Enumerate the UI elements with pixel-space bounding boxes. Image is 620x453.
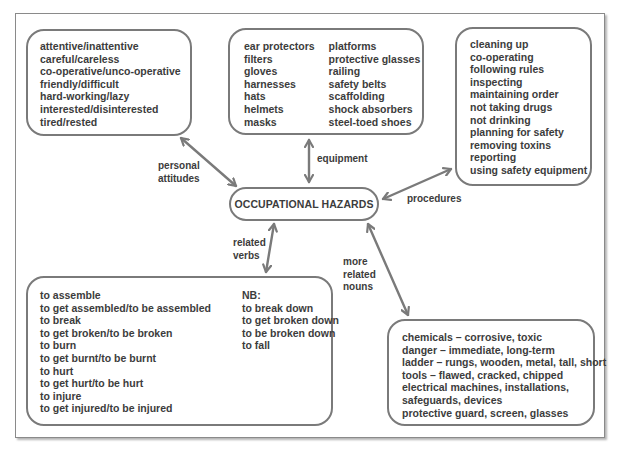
- personal-attitudes-list: attentive/inattentive careful/careless c…: [40, 40, 190, 128]
- list-item: tired/rested: [40, 116, 190, 129]
- equipment-list-col1: ear protectors filters gloves harnesses …: [244, 40, 315, 133]
- nb-heading: NB:: [242, 289, 339, 302]
- label-line: personal: [158, 160, 200, 173]
- list-item: platforms: [329, 40, 421, 53]
- list-item: electrical machines, installations,: [402, 381, 593, 394]
- list-item: co-operative/unco-operative: [40, 65, 190, 78]
- list-item: hard-working/lazy: [40, 90, 190, 103]
- list-item: shock absorbers: [329, 103, 421, 116]
- related-verbs-box: to assemble to get assembled/to be assem…: [26, 276, 333, 426]
- list-item: following rules: [470, 63, 590, 76]
- list-item: filters: [244, 53, 315, 66]
- equipment-list-col2: platforms protective glasses railing saf…: [329, 40, 421, 133]
- link-label-personal-attitudes: personal attitudes: [158, 160, 200, 185]
- label-line: related: [233, 237, 266, 250]
- list-item: safeguards, devices: [402, 394, 593, 407]
- list-item: ladder – rungs, wooden, metal, tall, sho…: [402, 356, 593, 369]
- list-item: removing toxins: [470, 139, 590, 152]
- link-label-related-verbs: related verbs: [233, 237, 266, 262]
- list-item: to get hurt/to be hurt: [40, 377, 211, 390]
- list-item: to be broken down: [242, 327, 339, 340]
- procedures-box: cleaning up co-operating following rules…: [455, 27, 592, 186]
- list-item: maintaining order: [470, 88, 590, 101]
- list-item: to assemble: [40, 289, 211, 302]
- list-item: reporting: [470, 151, 590, 164]
- label-line: attitudes: [158, 173, 200, 186]
- list-item: to hurt: [40, 365, 211, 378]
- list-item: cleaning up: [470, 38, 590, 51]
- list-item: using safety equipment: [470, 164, 590, 177]
- central-node-title: OCCUPATIONAL HAZARDS: [234, 198, 373, 210]
- label-line: nouns: [343, 281, 376, 294]
- list-item: interested/disinterested: [40, 103, 190, 116]
- list-item: safety belts: [329, 78, 421, 91]
- list-item: not drinking: [470, 114, 590, 127]
- list-item: railing: [329, 65, 421, 78]
- list-item: to get assembled/to be assembled: [40, 302, 211, 315]
- list-item: friendly/difficult: [40, 78, 190, 91]
- label-line: verbs: [233, 250, 266, 263]
- list-item: inspecting: [470, 76, 590, 89]
- list-item: to get burnt/to be burnt: [40, 352, 211, 365]
- related-verbs-list-col1: to assemble to get assembled/to be assem…: [40, 289, 211, 424]
- list-item: steel-toed shoes: [329, 116, 421, 129]
- more-related-nouns-box: chemicals – corrosive, toxic danger – im…: [387, 319, 595, 426]
- link-label-procedures: procedures: [407, 193, 461, 206]
- link-label-more-related-nouns: more related nouns: [343, 256, 376, 294]
- more-related-nouns-list: chemicals – corrosive, toxic danger – im…: [402, 331, 593, 419]
- list-item: to break down: [242, 302, 339, 315]
- equipment-box: ear protectors filters gloves harnesses …: [228, 28, 424, 135]
- personal-attitudes-box: attentive/inattentive careful/careless c…: [26, 29, 192, 136]
- list-item: masks: [244, 116, 315, 129]
- related-verbs-list-col2: NB: to break down to get broken down to …: [242, 289, 339, 352]
- list-item: harnesses: [244, 78, 315, 91]
- list-item: to get injured/to be injured: [40, 402, 211, 415]
- list-item: to break: [40, 314, 211, 327]
- list-item: tools – flawed, cracked, chipped: [402, 369, 593, 382]
- list-item: careful/careless: [40, 53, 190, 66]
- list-item: to get broken down: [242, 314, 339, 327]
- procedures-list: cleaning up co-operating following rules…: [470, 38, 590, 177]
- list-item: attentive/inattentive: [40, 40, 190, 53]
- list-item: chemicals – corrosive, toxic: [402, 331, 593, 344]
- list-item: to burn: [40, 339, 211, 352]
- list-item: helmets: [244, 103, 315, 116]
- list-item: planning for safety: [470, 126, 590, 139]
- list-item: scaffolding: [329, 90, 421, 103]
- list-item: to injure: [40, 390, 211, 403]
- list-item: not taking drugs: [470, 101, 590, 114]
- central-node: OCCUPATIONAL HAZARDS: [229, 187, 379, 221]
- list-item: to get broken/to be broken: [40, 327, 211, 340]
- label-line: related: [343, 269, 376, 282]
- list-item: hats: [244, 90, 315, 103]
- list-item: protective glasses: [329, 53, 421, 66]
- list-item: co-operating: [470, 51, 590, 64]
- link-label-equipment: equipment: [317, 153, 368, 166]
- list-item: ear protectors: [244, 40, 315, 53]
- list-item: to fall: [242, 339, 339, 352]
- label-line: more: [343, 256, 376, 269]
- list-item: danger – immediate, long-term: [402, 344, 593, 357]
- list-item: gloves: [244, 65, 315, 78]
- list-item: protective guard, screen, glasses: [402, 407, 593, 420]
